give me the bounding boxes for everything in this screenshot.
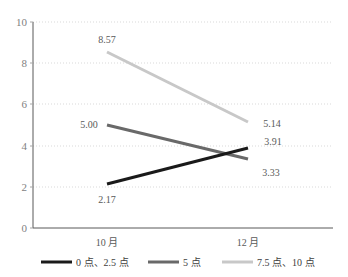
y-axis-label-2: 2 bbox=[22, 181, 28, 193]
datalabel-333: 3.33 bbox=[262, 167, 280, 178]
legend-label-0-25[interactable]: 0 点、2.5 点 bbox=[76, 257, 129, 268]
legend-label-75-10[interactable]: 7.5 点、10 点 bbox=[257, 257, 315, 268]
y-axis-label-6: 6 bbox=[22, 98, 28, 110]
x-axis-label-oct: 10 月 bbox=[96, 237, 119, 248]
datalabel-514: 5.14 bbox=[263, 118, 281, 129]
datalabel-857: 8.57 bbox=[98, 34, 116, 45]
y-axis-label-10: 10 bbox=[16, 16, 28, 28]
y-axis-label-0: 0 bbox=[22, 222, 28, 234]
line-chart: 10 8 6 4 2 0 10 月 12 月 8.57 5.14 5.00 3.… bbox=[0, 0, 348, 277]
y-axis-label-8: 8 bbox=[22, 57, 28, 69]
chart-background bbox=[0, 0, 348, 277]
datalabel-217: 2.17 bbox=[98, 194, 116, 205]
legend-label-5[interactable]: 5 点 bbox=[183, 257, 201, 268]
x-axis-label-dec: 12 月 bbox=[237, 237, 260, 248]
chart-canvas: 10 8 6 4 2 0 10 月 12 月 8.57 5.14 5.00 3.… bbox=[0, 0, 348, 277]
datalabel-391: 3.91 bbox=[264, 136, 282, 147]
y-axis-label-4: 4 bbox=[22, 140, 28, 152]
datalabel-500: 5.00 bbox=[80, 119, 98, 130]
